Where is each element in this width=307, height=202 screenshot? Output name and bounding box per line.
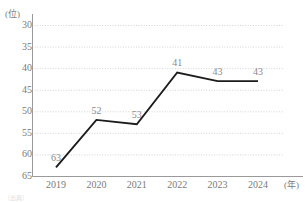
data-line-series-1	[56, 72, 258, 167]
axis-lines	[33, 14, 304, 177]
chart-container: (位) (年) 3035404550556065 201920202021202…	[0, 0, 307, 202]
chart-caption: （出典）	[4, 193, 28, 202]
plot-area	[0, 0, 307, 202]
gridlines	[32, 26, 283, 177]
